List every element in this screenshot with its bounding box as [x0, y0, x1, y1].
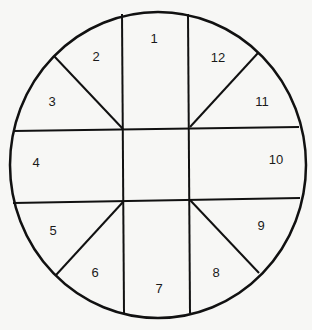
segment-label-7: 7: [155, 281, 162, 296]
segment-label-9: 9: [257, 218, 264, 233]
segment-label-11: 11: [255, 94, 269, 109]
diagonal-line-2-3: [54, 56, 123, 129]
diagonal-line-5-6: [56, 202, 123, 275]
segmented-circle-diagram: 123456789101112: [0, 0, 312, 330]
segment-label-2: 2: [92, 49, 99, 64]
segment-label-10: 10: [269, 152, 283, 167]
segment-label-4: 4: [32, 155, 39, 170]
segment-label-5: 5: [49, 223, 56, 238]
segment-label-8: 8: [212, 265, 219, 280]
segment-label-1: 1: [150, 31, 157, 46]
diagonal-line-8-9: [190, 200, 259, 273]
right-vertical-line: [188, 14, 190, 313]
upper-horizontal-line: [13, 127, 299, 131]
segment-label-3: 3: [48, 94, 55, 109]
segment-labels: 123456789101112: [32, 31, 283, 296]
segment-label-6: 6: [91, 265, 98, 280]
left-vertical-line: [122, 14, 124, 313]
segment-label-12: 12: [211, 50, 225, 65]
lower-horizontal-line: [13, 198, 300, 203]
outer-circle: [10, 12, 306, 318]
